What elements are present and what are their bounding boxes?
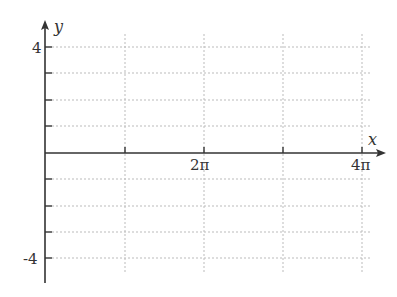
- x-tick-label-2pi: 2π: [190, 156, 210, 174]
- x-tick-label-4pi: 4π: [351, 156, 371, 174]
- y-tick-label-neg4: -4: [23, 250, 38, 268]
- y-tick-label-4: 4: [32, 39, 42, 57]
- y-axis-label: y: [53, 17, 64, 36]
- axes: [45, 27, 380, 283]
- x-ticks: [125, 147, 362, 153]
- coordinate-plane: y x 4 -4 2π 4π: [0, 0, 397, 297]
- x-axis-label: x: [368, 130, 377, 149]
